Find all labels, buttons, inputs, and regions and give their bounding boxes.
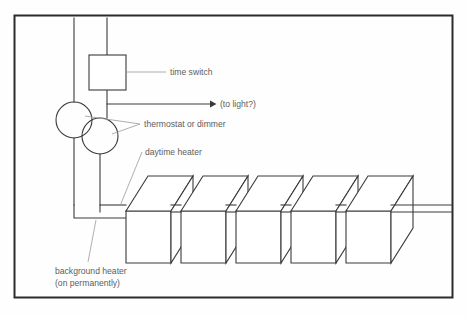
- heater-box-1-front: [126, 211, 171, 263]
- heater-box-3-front: [236, 211, 281, 263]
- label-background-heater-line1: background heater: [55, 266, 127, 276]
- heater-box-4-front: [291, 211, 336, 263]
- label-thermostat-or-dimmer: thermostat or dimmer: [144, 119, 226, 129]
- label-background-heater-line2: (on permanently): [55, 278, 120, 288]
- heater-box-2-front: [181, 211, 226, 263]
- label-time-switch: time switch: [170, 67, 213, 77]
- heater-box-5-front: [346, 211, 391, 263]
- label-to-light: (to light?): [220, 99, 256, 109]
- label-daytime-heater: daytime heater: [145, 147, 202, 157]
- time-switch-box: [89, 55, 126, 90]
- diagram-page: time switch (to light?) thermostat or di…: [0, 0, 468, 317]
- heating-circuit-diagram: time switch (to light?) thermostat or di…: [0, 0, 468, 317]
